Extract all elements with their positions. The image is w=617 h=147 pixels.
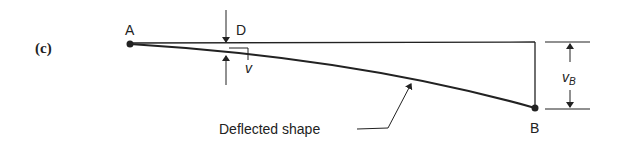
- deflected-shape-curve: [130, 44, 535, 108]
- point-d-label: D: [236, 22, 246, 38]
- point-a-marker: [127, 41, 134, 48]
- point-b-marker: [532, 105, 539, 112]
- undeflected-reference-line: [130, 42, 535, 43]
- panel-label: (c): [35, 40, 52, 57]
- point-a-label: A: [125, 22, 135, 38]
- annotation-leader-arrow-icon: [357, 84, 411, 129]
- deflected-shape-annotation: Deflected shape: [219, 121, 320, 137]
- deflection-diagram: (c) A B D v vB Deflected shape: [0, 0, 617, 147]
- vb-label: vB: [562, 69, 576, 87]
- v-label: v: [245, 60, 253, 76]
- point-b-label: B: [530, 120, 539, 136]
